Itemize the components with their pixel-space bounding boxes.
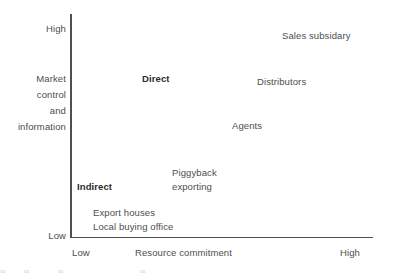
group-label-direct: Direct [142, 72, 170, 85]
entry-label-sales-subsidary: Sales subsidary [282, 29, 351, 42]
y-axis-title-line-4: information [0, 120, 66, 133]
x-axis-line [70, 237, 373, 239]
entry-label-agents: Agents [232, 119, 262, 132]
entry-label-local-buying-office: Local buying office [93, 220, 173, 233]
scan-artifact-text: a a a a [0, 270, 145, 275]
x-axis-title: Resource commitment [135, 246, 232, 259]
market-entry-matrix-figure: High Market control and information Low … [0, 0, 394, 277]
x-axis-high-label: High [340, 246, 360, 259]
entry-label-distributors: Distributors [257, 75, 306, 88]
y-axis-title-line-2: control [6, 88, 66, 101]
entry-label-export-houses: Export houses [93, 206, 155, 219]
y-axis-title-line-3: and [6, 104, 66, 117]
y-axis-title-line-1: Market [6, 72, 66, 85]
group-label-indirect: Indirect [77, 180, 112, 193]
y-axis-low-label: Low [18, 229, 66, 242]
x-axis-low-label: Low [72, 246, 90, 259]
scan-artifact-strip: a a a a [0, 270, 394, 277]
entry-label-piggyback: Piggyback [172, 166, 217, 179]
y-axis-line [70, 14, 72, 238]
entry-label-exporting: exporting [172, 180, 212, 193]
y-axis-high-label: High [18, 22, 66, 35]
